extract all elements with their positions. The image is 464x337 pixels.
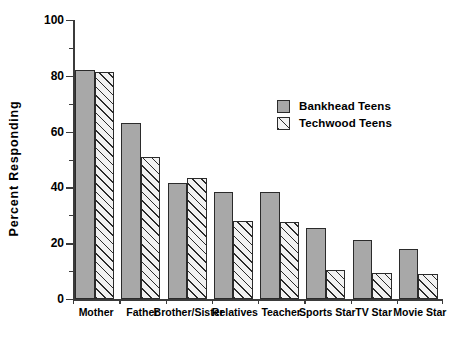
bar-movie-star-techwood-teens bbox=[418, 274, 438, 299]
x-category-label-tv-star: TV Star bbox=[355, 306, 392, 318]
x-tick bbox=[119, 299, 120, 304]
legend-item-bankhead-teens: Bankhead Teens bbox=[277, 99, 392, 113]
y-tick-major bbox=[66, 243, 73, 244]
x-tick bbox=[304, 299, 305, 304]
legend-swatch-hatched-icon bbox=[277, 117, 290, 130]
y-tick-label: 20 bbox=[51, 236, 64, 250]
x-category-label-relatives: Relatives bbox=[212, 306, 258, 318]
x-tick bbox=[166, 299, 167, 304]
bar-chart: Percent Responding 020406080100 MotherFa… bbox=[0, 0, 464, 337]
x-tick bbox=[258, 299, 259, 304]
y-axis-title: Percent Responding bbox=[14, 0, 72, 337]
bar-relatives-techwood-teens bbox=[233, 221, 253, 299]
x-tick bbox=[212, 299, 213, 304]
bar-mother-bankhead-teens bbox=[75, 70, 95, 299]
bar-mother-techwood-teens bbox=[95, 72, 115, 299]
x-category-label-teacher: Teacher bbox=[261, 306, 301, 318]
y-tick-label: 0 bbox=[57, 292, 64, 306]
x-category-label-mother: Mother bbox=[79, 306, 114, 318]
x-tick bbox=[73, 299, 74, 304]
x-tick bbox=[442, 299, 443, 304]
x-tick bbox=[351, 299, 352, 304]
y-tick-major bbox=[66, 187, 73, 188]
bar-father-techwood-teens bbox=[141, 157, 161, 299]
y-tick-major bbox=[66, 76, 73, 77]
legend: Bankhead Teens Techwood Teens bbox=[277, 99, 392, 130]
x-category-label-movie-star: Movie Star bbox=[393, 306, 446, 318]
bar-sports-star-techwood-teens bbox=[326, 270, 346, 299]
bar-brother-sister-bankhead-teens bbox=[168, 183, 188, 299]
bar-relatives-bankhead-teens bbox=[214, 192, 234, 299]
y-tick-major bbox=[66, 299, 73, 300]
bar-father-bankhead-teens bbox=[121, 123, 141, 299]
y-tick-label: 60 bbox=[51, 125, 64, 139]
legend-label: Techwood Teens bbox=[299, 117, 392, 129]
y-tick-label: 100 bbox=[44, 13, 64, 27]
y-tick-major bbox=[66, 20, 73, 21]
legend-swatch-solid-icon bbox=[277, 100, 290, 113]
bars-layer bbox=[73, 20, 443, 299]
bar-teacher-techwood-teens bbox=[280, 222, 300, 299]
x-category-label-sports-star: Sports Star bbox=[299, 306, 356, 318]
plot-area: 020406080100 bbox=[73, 20, 443, 299]
bar-brother-sister-techwood-teens bbox=[187, 178, 207, 299]
x-tick bbox=[397, 299, 398, 304]
bar-tv-star-techwood-teens bbox=[372, 273, 392, 300]
legend-label: Bankhead Teens bbox=[299, 100, 391, 112]
bar-sports-star-bankhead-teens bbox=[306, 228, 326, 299]
y-tick-label: 40 bbox=[51, 180, 64, 194]
y-tick-label: 80 bbox=[51, 69, 64, 83]
bar-tv-star-bankhead-teens bbox=[353, 240, 373, 299]
legend-item-techwood-teens: Techwood Teens bbox=[277, 116, 392, 130]
bar-movie-star-bankhead-teens bbox=[399, 249, 419, 299]
y-tick-major bbox=[66, 132, 73, 133]
bar-teacher-bankhead-teens bbox=[260, 192, 280, 299]
